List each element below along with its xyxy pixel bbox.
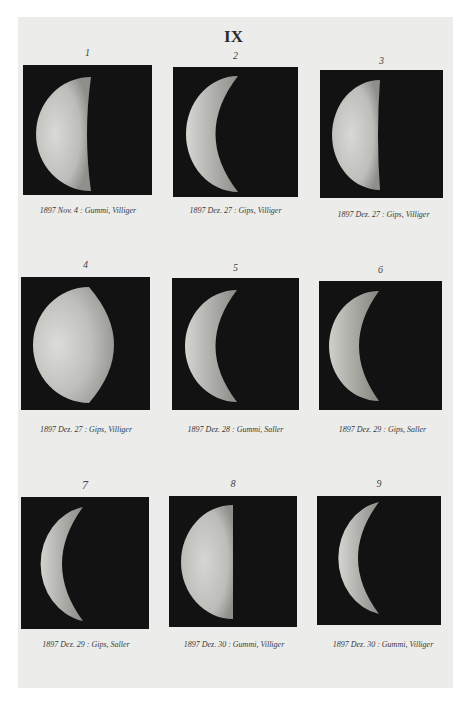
figure-caption: 1897 Dez. 29 : Gips, Saller xyxy=(16,640,156,649)
figure-number: 9 xyxy=(317,478,441,489)
venus-phase-icon xyxy=(169,496,297,627)
figure-number: 8 xyxy=(169,478,297,489)
figure-number: 4 xyxy=(21,259,150,270)
figure-caption: 1897 Dez. 28 : Gummi, Saller xyxy=(163,425,308,434)
venus-drawing-1 xyxy=(23,65,152,195)
figure-caption: 1897 Dez. 27 : Gips, Villiger xyxy=(163,206,308,215)
figure-caption: 1897 Dez. 30 : Gummi, Villiger xyxy=(160,640,308,649)
figure-number: 3 xyxy=(320,55,443,66)
figure-caption: 1897 Nov. 4 : Gummi, Villiger xyxy=(18,206,158,215)
figure-caption: 1897 Dez. 29 : Gips, Saller xyxy=(310,425,455,434)
venus-phase-icon xyxy=(319,281,442,410)
venus-drawing-5 xyxy=(172,278,299,410)
figure-number: 2 xyxy=(173,50,298,61)
venus-phase-icon xyxy=(21,497,149,629)
plate-title: IX xyxy=(0,27,467,47)
venus-drawing-8 xyxy=(169,496,297,627)
venus-drawing-3 xyxy=(320,70,443,198)
figure-number: 5 xyxy=(172,262,299,273)
figure-number: 7 xyxy=(21,478,149,493)
venus-phase-icon xyxy=(320,70,443,198)
figure-number: 6 xyxy=(319,264,442,275)
venus-phase-icon xyxy=(173,67,298,197)
venus-phase-icon xyxy=(21,277,150,410)
figure-caption: 1897 Dez. 27 : Gips, Villiger xyxy=(311,210,456,219)
figure-caption: 1897 Dez. 27 : Gips, Villiger xyxy=(16,425,156,434)
figure-caption: 1897 Dez. 30 : Gummi, Villiger xyxy=(309,640,457,649)
venus-drawing-7 xyxy=(21,497,149,629)
venus-phase-icon xyxy=(172,278,299,410)
venus-drawing-6 xyxy=(319,281,442,410)
venus-drawing-9 xyxy=(317,496,441,625)
venus-drawing-2 xyxy=(173,67,298,197)
venus-drawing-4 xyxy=(21,277,150,410)
venus-phase-icon xyxy=(23,65,152,195)
figure-number: 1 xyxy=(23,47,152,58)
venus-phase-icon xyxy=(317,496,441,625)
